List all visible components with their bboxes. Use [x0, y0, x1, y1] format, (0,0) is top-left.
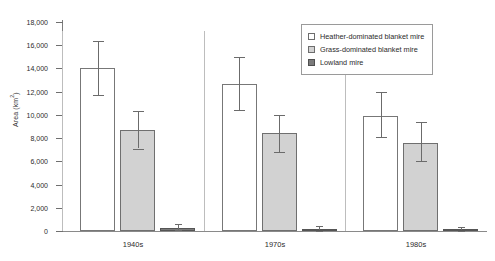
error-bar-cap-lower-heather-1980s [376, 137, 387, 138]
legend-swatch-icon-grass [308, 46, 315, 53]
error-bar-cap-upper-lowland-1970s [316, 226, 323, 227]
y-axis-tick-label: 4,000 [2, 181, 48, 188]
error-bar-cap-lower-grass-1980s [416, 161, 427, 162]
error-bar-cap-lower-lowland-1940s [175, 230, 182, 231]
error-bar-cap-upper-heather-1940s [93, 41, 104, 42]
y-axis-tick-label: 18,000 [2, 19, 48, 26]
chart-legend: Heather-dominated blanket mireGrass-domi… [301, 24, 433, 75]
error-bar-cap-upper-grass-1980s [416, 122, 427, 123]
x-axis-tick-label: 1980s [376, 240, 456, 249]
error-bar-cap-lower-lowland-1980s [458, 231, 465, 232]
error-bar-cap-upper-lowland-1940s [175, 224, 182, 225]
error-bar-cap-lower-heather-1970s [234, 110, 245, 111]
y-axis-tick [56, 231, 63, 232]
y-axis-tick-label: 10,000 [2, 111, 48, 118]
error-bar-cap-lower-heather-1940s [93, 95, 104, 96]
error-bar-stem-grass-1940s [138, 111, 139, 148]
legend-label-heather: Heather-dominated blanket mire [320, 32, 424, 41]
y-axis-tick-label: 14,000 [2, 65, 48, 72]
x-axis-tick-label: 1970s [235, 240, 315, 249]
y-axis-tick-label: 8,000 [2, 135, 48, 142]
error-bar-cap-upper-grass-1970s [274, 115, 285, 116]
error-bar-stem-heather-1970s [239, 57, 240, 110]
y-axis-tick-label: 6,000 [2, 158, 48, 165]
y-axis-tick-label: 16,000 [2, 42, 48, 49]
x-axis-tick-label: 1940s [93, 240, 173, 249]
legend-swatch-icon-heather [308, 33, 315, 40]
legend-item-lowland[interactable]: Lowland mire [308, 56, 424, 69]
legend-item-grass[interactable]: Grass-dominated blanket mire [308, 43, 424, 56]
error-bar-stem-grass-1980s [421, 122, 422, 161]
y-axis-tick-label: 0 [2, 228, 48, 235]
legend-label-lowland: Lowland mire [320, 58, 363, 67]
error-bar-cap-upper-lowland-1980s [458, 227, 465, 228]
legend-label-grass: Grass-dominated blanket mire [320, 45, 418, 54]
x-axis-line [62, 231, 487, 232]
error-bar-cap-lower-lowland-1970s [316, 231, 323, 232]
error-bar-cap-lower-grass-1970s [274, 152, 285, 153]
bar-chart: Area (km2) 02,0004,0006,0008,00010,00012… [0, 0, 495, 261]
legend-item-heather[interactable]: Heather-dominated blanket mire [308, 30, 424, 43]
y-axis-tick-label: 2,000 [2, 204, 48, 211]
y-axis-tick-label: 12,000 [2, 88, 48, 95]
legend-swatch-icon-lowland [308, 59, 315, 66]
error-bar-cap-upper-heather-1970s [234, 57, 245, 58]
error-bar-stem-heather-1980s [381, 92, 382, 137]
error-bar-cap-lower-grass-1940s [133, 149, 144, 150]
error-bar-cap-upper-heather-1980s [376, 92, 387, 93]
y-axis-title-superscript: 2 [9, 95, 15, 98]
error-bar-cap-upper-grass-1940s [133, 111, 144, 112]
error-bar-stem-heather-1940s [98, 41, 99, 96]
error-bar-stem-grass-1970s [279, 115, 280, 152]
